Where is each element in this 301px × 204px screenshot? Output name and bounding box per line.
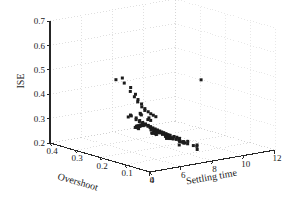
data-point-marker <box>146 118 149 121</box>
data-point-marker <box>152 114 155 117</box>
data-point-marker <box>151 132 154 135</box>
data-point-marker <box>143 109 146 112</box>
data-point-marker <box>186 140 189 143</box>
ytick-label: 12 <box>273 153 282 163</box>
grid-line-floor-overshoot <box>75 128 200 150</box>
data-point-marker <box>129 90 132 93</box>
ytick-label: 10 <box>241 159 251 169</box>
xtick-label: 0.1 <box>121 168 132 178</box>
data-point-marker <box>138 120 141 123</box>
data-point-marker <box>175 138 178 141</box>
data-point-marker <box>140 113 143 116</box>
xtick-label: 0.3 <box>71 153 83 163</box>
axis-title-ise: ISE <box>15 74 26 89</box>
scatter3d-figure: 0.20.30.40.50.60.70.40.30.20.104681012 I… <box>0 0 301 204</box>
ztick-label: 0.4 <box>34 89 46 99</box>
data-point-marker <box>127 115 130 118</box>
ztick-label: 0.7 <box>34 16 46 26</box>
data-point-marker <box>178 143 181 146</box>
ytick-label: 4 <box>150 175 155 185</box>
data-point-marker <box>114 78 117 81</box>
data-point-marker <box>200 78 203 81</box>
data-point-marker <box>149 112 152 115</box>
grid-layer <box>50 0 275 172</box>
data-point-marker <box>135 118 138 121</box>
xtick-label: 0.2 <box>96 161 107 171</box>
axis-title-overshoot: Overshoot <box>56 171 99 193</box>
data-point-marker <box>179 140 182 143</box>
data-point-marker <box>130 114 133 117</box>
data-point-marker <box>165 137 168 140</box>
data-point-marker <box>196 148 199 151</box>
grid-line-wallleft-ise <box>50 48 175 70</box>
xtick-label: 0.4 <box>46 146 58 156</box>
data-point-marker <box>150 128 153 131</box>
data-point-marker <box>196 143 199 146</box>
data-point-marker <box>140 105 143 108</box>
data-point-marker <box>192 144 195 147</box>
data-point-marker <box>123 82 126 85</box>
data-point-marker <box>155 133 158 136</box>
data-point-marker <box>133 95 136 98</box>
plot-canvas: 0.20.30.40.50.60.70.40.30.20.104681012 I… <box>0 0 301 204</box>
data-point-marker <box>137 127 140 130</box>
data-point-marker <box>154 115 157 118</box>
data-point-marker <box>140 102 143 105</box>
data-point-marker <box>129 86 132 89</box>
ztick-label: 0.3 <box>34 114 46 124</box>
ztick-label: 0.5 <box>34 65 46 75</box>
data-point-marker <box>182 140 185 143</box>
data-point-marker <box>161 133 164 136</box>
ztick-label: 0.6 <box>34 41 46 51</box>
data-points <box>114 77 202 151</box>
data-point-marker <box>121 77 124 80</box>
data-point-marker <box>170 137 173 140</box>
ztick-label: 0.2 <box>34 138 45 148</box>
grid-line-floor-overshoot <box>100 136 225 158</box>
data-point-marker <box>136 100 139 103</box>
data-point-marker <box>149 119 152 122</box>
data-point-marker <box>147 110 150 113</box>
